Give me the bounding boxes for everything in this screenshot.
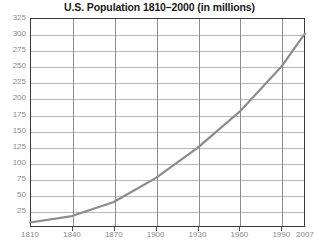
x-axis-tick-label-1810: 1810 <box>21 231 39 239</box>
x-axis-tick-label-1990: 1990 <box>272 231 290 239</box>
chart-container: U.S. Population 1810–2000 (in millions) … <box>0 0 319 248</box>
x-axis-labels: 18101840187019001930196019902007 <box>0 0 319 248</box>
x-axis-tick-label-2007: 2007 <box>296 231 314 239</box>
x-axis-tick-label-1960: 1960 <box>230 231 248 239</box>
x-axis-tick-label-1930: 1930 <box>189 231 207 239</box>
x-axis-tick-label-1870: 1870 <box>105 231 123 239</box>
x-axis-tick-label-1840: 1840 <box>63 231 81 239</box>
x-axis-tick-label-1900: 1900 <box>147 231 165 239</box>
